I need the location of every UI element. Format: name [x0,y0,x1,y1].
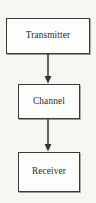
node-channel: Channel [18,84,80,119]
node-transmitter: Transmitter [6,18,90,54]
block-diagram: Transmitter Channel Receiver [0,0,96,203]
node-transmitter-label: Transmitter [26,31,71,40]
arrow-transmitter-to-channel [45,54,52,84]
node-channel-label: Channel [33,97,65,106]
node-receiver-label: Receiver [32,167,66,176]
arrow-channel-to-receiver [45,119,52,152]
node-receiver: Receiver [18,152,80,192]
